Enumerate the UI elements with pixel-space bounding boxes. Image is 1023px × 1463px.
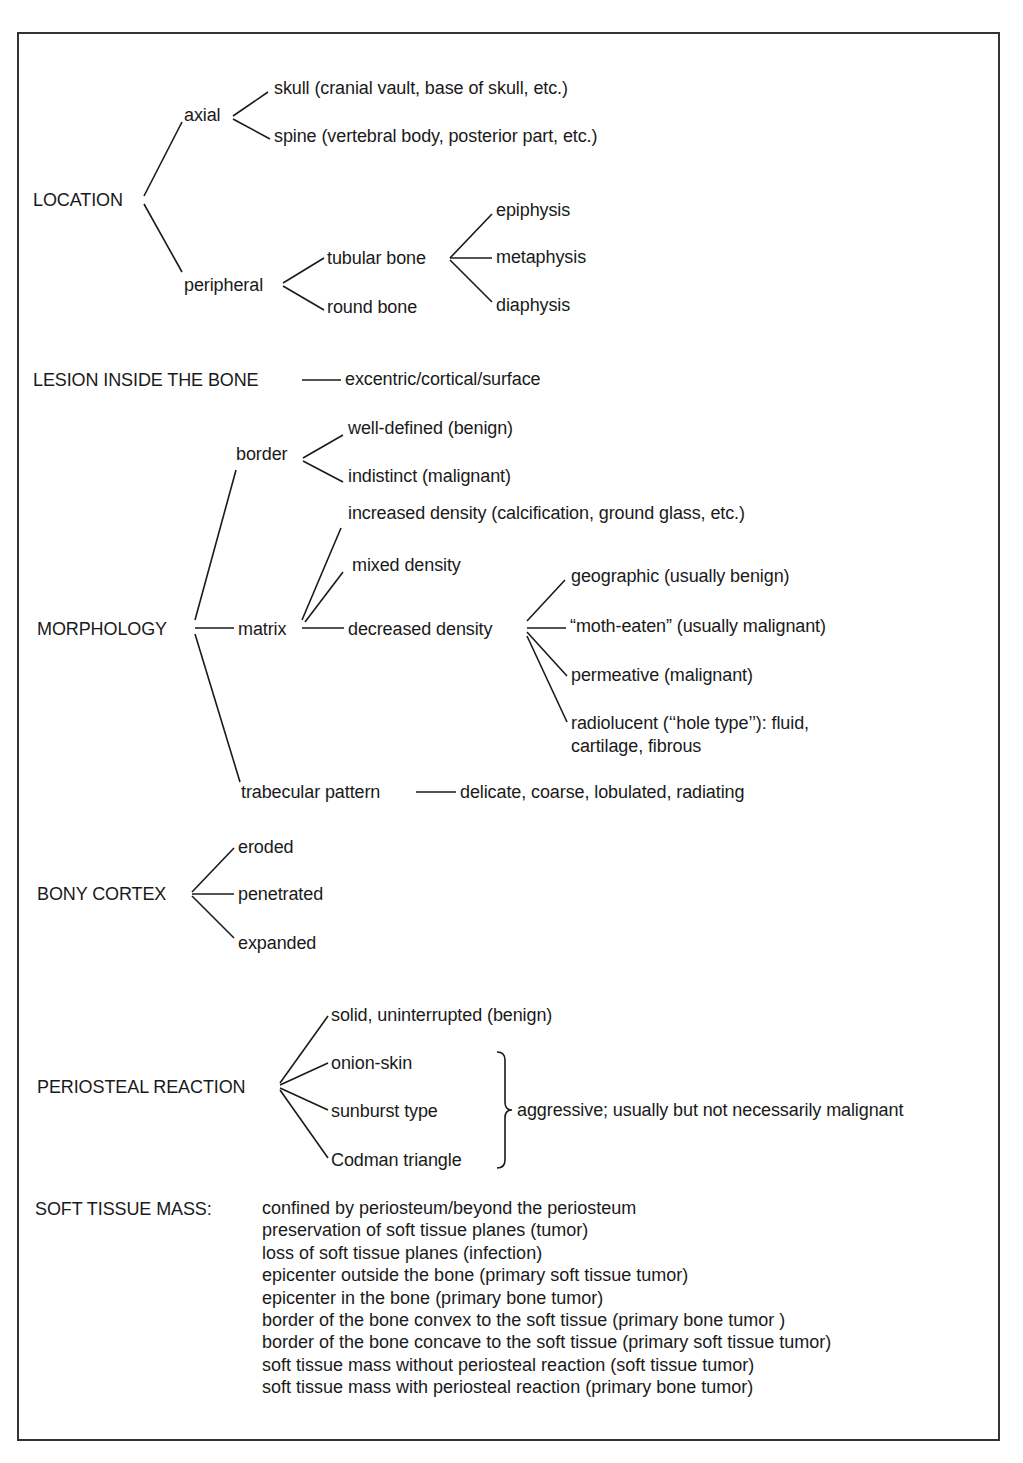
- soft-tissue-item: confined by periosteum/beyond the perios…: [262, 1197, 831, 1219]
- morphology-heading: MORPHOLOGY: [37, 619, 167, 639]
- metaphysis-label: metaphysis: [496, 247, 586, 267]
- indistinct-label: indistinct (malignant): [348, 466, 511, 486]
- peripheral-label: peripheral: [184, 275, 263, 295]
- axial-label: axial: [184, 105, 221, 125]
- lesion-heading: LESION INSIDE THE BONE: [33, 370, 259, 390]
- soft-tissue-item: soft tissue mass with periosteal reactio…: [262, 1376, 831, 1398]
- permeative-label: permeative (malignant): [571, 665, 753, 685]
- tubular-bone-label: tubular bone: [327, 248, 426, 268]
- sunburst-label: sunburst type: [331, 1101, 438, 1121]
- soft-tissue-item: border of the bone concave to the soft t…: [262, 1331, 831, 1353]
- soft-tissue-list: confined by periosteum/beyond the perios…: [262, 1197, 831, 1399]
- soft-tissue-heading: SOFT TISSUE MASS:: [35, 1199, 212, 1219]
- codman-triangle-label: Codman triangle: [331, 1150, 462, 1170]
- location-heading: LOCATION: [33, 190, 123, 210]
- soft-tissue-item: preservation of soft tissue planes (tumo…: [262, 1219, 831, 1241]
- eroded-label: eroded: [238, 837, 293, 857]
- spine-label: spine (vertebral body, posterior part, e…: [274, 126, 597, 146]
- trabecular-pattern-value: delicate, coarse, lobulated, radiating: [460, 782, 744, 802]
- mixed-density-label: mixed density: [352, 555, 461, 575]
- trabecular-pattern-label: trabecular pattern: [241, 782, 380, 802]
- round-bone-label: round bone: [327, 297, 417, 317]
- geographic-label: geographic (usually benign): [571, 566, 789, 586]
- matrix-label: matrix: [238, 619, 286, 639]
- epiphysis-label: epiphysis: [496, 200, 570, 220]
- decreased-density-label: decreased density: [348, 619, 492, 639]
- border-label: border: [236, 444, 287, 464]
- well-defined-label: well-defined (benign): [348, 418, 513, 438]
- aggressive-note: aggressive; usually but not necessarily …: [517, 1100, 903, 1120]
- radiolucent-label: radiolucent (‘‘hole type’’): fluid,: [571, 713, 809, 733]
- soft-tissue-item: epicenter outside the bone (primary soft…: [262, 1264, 831, 1286]
- soft-tissue-item: loss of soft tissue planes (infection): [262, 1242, 831, 1264]
- periosteal-heading: PERIOSTEAL REACTION: [37, 1077, 245, 1097]
- penetrated-label: penetrated: [238, 884, 323, 904]
- solid-label: solid, uninterrupted (benign): [331, 1005, 552, 1025]
- moth-eaten-label: “moth-eaten” (usually malignant): [570, 616, 826, 636]
- onion-skin-label: onion-skin: [331, 1053, 412, 1073]
- radiolucent-label-cont: cartilage, fibrous: [571, 736, 701, 756]
- bony-cortex-heading: BONY CORTEX: [37, 884, 166, 904]
- diaphysis-label: diaphysis: [496, 295, 570, 315]
- soft-tissue-item: epicenter in the bone (primary bone tumo…: [262, 1287, 831, 1309]
- soft-tissue-item: soft tissue mass without periosteal reac…: [262, 1354, 831, 1376]
- lesion-value: excentric/cortical/surface: [345, 369, 540, 389]
- expanded-label: expanded: [238, 933, 316, 953]
- soft-tissue-item: border of the bone convex to the soft ti…: [262, 1309, 831, 1331]
- increased-density-label: increased density (calcification, ground…: [348, 503, 745, 523]
- skull-label: skull (cranial vault, base of skull, etc…: [274, 78, 568, 98]
